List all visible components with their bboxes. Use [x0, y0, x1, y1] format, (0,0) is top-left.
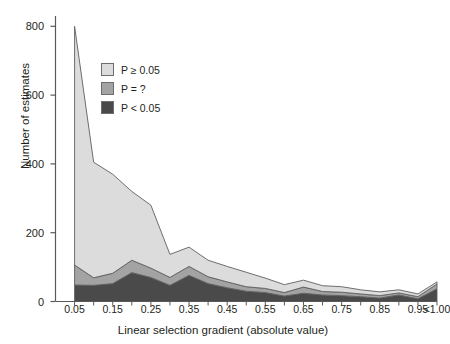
- legend-item: P < 0.05: [101, 98, 160, 117]
- legend-label: P = ?: [121, 83, 146, 95]
- legend-swatch-1: [101, 82, 114, 95]
- legend-item: P = ?: [101, 79, 160, 98]
- y-tick-label: 200: [10, 228, 44, 238]
- y-tick-label: 0: [10, 297, 44, 307]
- y-tick-label: 800: [10, 21, 44, 31]
- legend-label: P < 0.05: [121, 102, 160, 114]
- y-axis-title: Number of estimates: [19, 36, 31, 196]
- legend-label: P ≥ 0.05: [121, 64, 160, 76]
- x-axis-title: Linear selection gradient (absolute valu…: [0, 324, 446, 336]
- legend-item: P ≥ 0.05: [101, 60, 160, 79]
- y-tick-marks-group: [51, 26, 56, 301]
- legend-swatch-0: [101, 63, 114, 76]
- legend-swatch-2: [101, 101, 114, 114]
- legend: P ≥ 0.05P = ?P < 0.05: [101, 60, 160, 117]
